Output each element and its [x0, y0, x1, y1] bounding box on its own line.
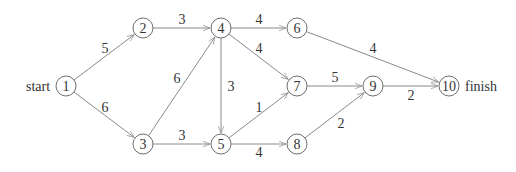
node-5: 5 — [211, 134, 231, 154]
edge-weight-4-7: 4 — [256, 41, 263, 56]
node-label: 4 — [218, 21, 225, 36]
node-label: 2 — [140, 21, 147, 36]
start-label: start — [26, 79, 50, 94]
edge-weight-7-9: 5 — [332, 70, 339, 85]
node-9: 9 — [363, 76, 383, 96]
edge-weight-9-10: 2 — [408, 88, 415, 103]
node-1: 1 — [56, 76, 76, 96]
node-label: 7 — [294, 79, 301, 94]
node-10: 10 — [439, 76, 459, 96]
edge-6-10 — [306, 32, 438, 83]
node-8: 8 — [287, 134, 307, 154]
edge-weight-1-2: 5 — [102, 41, 109, 56]
edge-weight-4-5: 3 — [228, 79, 235, 94]
network-diagram: 56363443144522 12345678910 start finish — [0, 0, 516, 172]
edge-3-4 — [149, 37, 215, 136]
finish-label: finish — [465, 79, 497, 94]
edge-weight-5-7: 1 — [256, 100, 263, 115]
node-label: 5 — [218, 137, 225, 152]
node-label: 8 — [294, 137, 301, 152]
edge-weight-8-9: 2 — [338, 116, 345, 131]
edge-8-9 — [305, 93, 364, 138]
node-6: 6 — [287, 18, 307, 38]
edge-weight-5-8: 4 — [256, 145, 263, 160]
node-label: 3 — [140, 137, 147, 152]
node-label: 10 — [442, 79, 456, 94]
node-3: 3 — [133, 134, 153, 154]
node-label: 6 — [294, 21, 301, 36]
edge-weight-1-3: 6 — [102, 100, 109, 115]
edge-weight-2-4: 3 — [179, 12, 186, 27]
edge-weight-4-6: 4 — [256, 12, 263, 27]
edge-weight-3-4: 6 — [174, 71, 181, 86]
edge-weight-6-10: 4 — [370, 41, 377, 56]
node-4: 4 — [211, 18, 231, 38]
node-label: 9 — [370, 79, 377, 94]
node-7: 7 — [287, 76, 307, 96]
node-2: 2 — [133, 18, 153, 38]
node-label: 1 — [63, 79, 70, 94]
edge-weight-3-5: 3 — [179, 128, 186, 143]
